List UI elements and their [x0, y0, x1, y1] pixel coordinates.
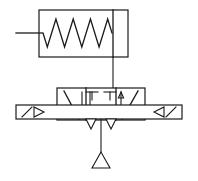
spring-return-actuator — [16, 10, 128, 57]
valve-schematic-svg — [0, 0, 198, 181]
valve-schematic-diagram — [0, 0, 198, 181]
actuator-box — [39, 10, 128, 57]
exhaust-arrow-left — [86, 119, 96, 129]
exhaust-arrow-right — [106, 119, 116, 129]
exhaust-triangle-icon — [92, 152, 110, 168]
exhaust-vent — [92, 119, 110, 168]
